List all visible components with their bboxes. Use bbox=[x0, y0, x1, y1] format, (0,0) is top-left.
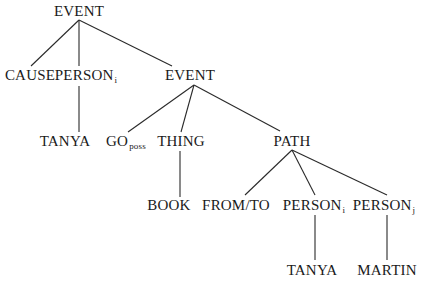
edge-event-path bbox=[194, 85, 280, 131]
conceptual-structure-tree: EVENT CAUSE PERSONi EVENT TANYA GOposs T… bbox=[0, 0, 421, 281]
node-label: EVENT bbox=[165, 67, 215, 83]
node-root-event: EVENT bbox=[54, 4, 104, 19]
edge-root-cause bbox=[31, 20, 79, 66]
node-label: PERSON bbox=[55, 67, 114, 83]
edge-event-thing bbox=[181, 85, 194, 132]
node-thing: THING bbox=[157, 134, 205, 149]
node-label: GO bbox=[106, 133, 128, 149]
node-label: PERSON bbox=[283, 197, 342, 213]
node-book: BOOK bbox=[147, 198, 190, 213]
edge-path-person-i bbox=[292, 150, 315, 195]
node-label: MARTIN bbox=[357, 262, 416, 278]
node-person-j: PERSONj bbox=[353, 198, 415, 213]
node-label: PATH bbox=[274, 133, 311, 149]
node-event-2: EVENT bbox=[165, 68, 215, 83]
node-label: CAUSE bbox=[5, 67, 55, 83]
edge-path-fromto bbox=[245, 150, 292, 195]
node-cause: CAUSE bbox=[5, 68, 55, 83]
node-label: EVENT bbox=[54, 3, 104, 19]
node-person-i: PERSONi bbox=[283, 198, 345, 213]
node-label: THING bbox=[157, 133, 205, 149]
node-go-poss: GOposs bbox=[106, 134, 146, 149]
edge-root-event bbox=[79, 20, 172, 66]
node-label: BOOK bbox=[147, 197, 190, 213]
node-tanya: TANYA bbox=[287, 263, 338, 278]
edge-event-go bbox=[128, 85, 194, 132]
node-tanya-top: TANYA bbox=[40, 134, 91, 149]
node-person-i-top: PERSONi bbox=[55, 68, 117, 83]
node-path: PATH bbox=[274, 134, 311, 149]
node-label: PERSON bbox=[353, 197, 412, 213]
node-subscript: poss bbox=[129, 141, 146, 151]
node-label: FROM/TO bbox=[202, 197, 270, 213]
edge-path-person-j bbox=[292, 150, 387, 195]
node-label: TANYA bbox=[287, 262, 338, 278]
node-martin: MARTIN bbox=[357, 263, 416, 278]
node-from-to: FROM/TO bbox=[202, 198, 270, 213]
node-label: TANYA bbox=[40, 133, 91, 149]
